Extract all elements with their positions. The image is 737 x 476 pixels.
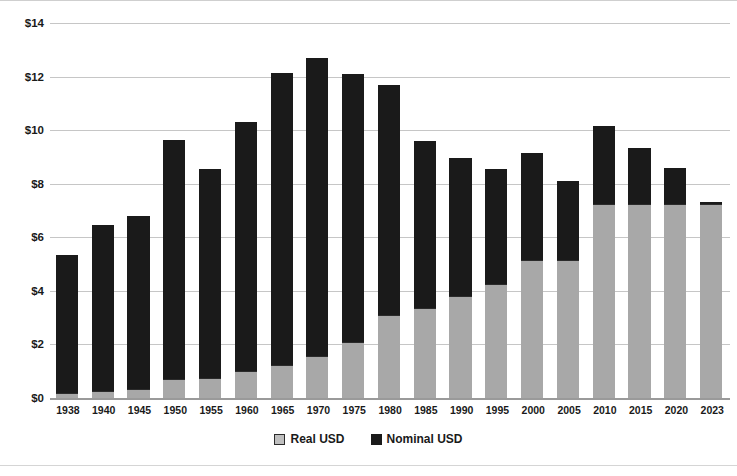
- bar-group: [50, 23, 86, 398]
- bar-group: [265, 23, 301, 398]
- bar-real-usd: [521, 260, 543, 398]
- bar-real-usd: [414, 308, 436, 398]
- bar-nominal-usd: [92, 225, 114, 398]
- bottom-divider: [0, 465, 737, 466]
- bar-group: [157, 23, 193, 398]
- bar-nominal-usd: [163, 140, 185, 398]
- bar-real-usd: [593, 204, 615, 398]
- y-tick-label: $10: [0, 124, 44, 136]
- bar-group: [193, 23, 229, 398]
- x-tick-label: 1955: [193, 404, 229, 416]
- bar-real-usd: [342, 342, 364, 398]
- bar-real-usd: [127, 389, 149, 398]
- bar-real-usd: [449, 296, 471, 398]
- bar-nominal-usd: [271, 73, 293, 398]
- y-tick-label: $2: [0, 338, 44, 350]
- bar-real-usd: [235, 371, 257, 398]
- y-tick-label: $4: [0, 285, 44, 297]
- legend-label: Real USD: [290, 432, 344, 446]
- legend-swatch-real-icon: [274, 434, 285, 445]
- bar-group: [551, 23, 587, 398]
- y-tick-label: $12: [0, 71, 44, 83]
- x-tick-label: 1995: [480, 404, 516, 416]
- bar-group: [229, 23, 265, 398]
- bar-real-usd: [92, 391, 114, 398]
- y-tick-label: $6: [0, 231, 44, 243]
- x-tick-label: 2015: [623, 404, 659, 416]
- x-tick-label: 1970: [301, 404, 337, 416]
- bar-group: [515, 23, 551, 398]
- legend-item[interactable]: Nominal USD: [371, 432, 463, 446]
- bar-real-usd: [271, 365, 293, 398]
- bar-group: [86, 23, 122, 398]
- x-tick-label: 1965: [265, 404, 301, 416]
- bar-group: [408, 23, 444, 398]
- gridline-0: [50, 398, 730, 400]
- bar-nominal-usd: [56, 255, 78, 398]
- legend-item[interactable]: Real USD: [274, 432, 344, 446]
- bar-groups: [50, 23, 730, 398]
- bar-real-usd: [628, 204, 650, 398]
- x-tick-label: 2000: [515, 404, 551, 416]
- x-tick-label: 1940: [86, 404, 122, 416]
- x-tick-label: 1980: [372, 404, 408, 416]
- bar-group: [122, 23, 158, 398]
- x-tick-label: 1938: [50, 404, 86, 416]
- bar-group: [372, 23, 408, 398]
- bar-group: [480, 23, 516, 398]
- x-tick-label: 2023: [694, 404, 730, 416]
- bar-group: [659, 23, 695, 398]
- bar-nominal-usd: [199, 169, 221, 398]
- bar-real-usd: [557, 260, 579, 398]
- bar-real-usd: [199, 378, 221, 398]
- bar-group: [623, 23, 659, 398]
- bar-nominal-usd: [306, 58, 328, 398]
- x-tick-label: 1985: [408, 404, 444, 416]
- bar-real-usd: [56, 393, 78, 398]
- y-tick-label: $14: [0, 17, 44, 29]
- x-tick-label: 1975: [336, 404, 372, 416]
- bar-real-usd: [378, 315, 400, 398]
- bar-group: [336, 23, 372, 398]
- bar-nominal-usd: [235, 122, 257, 398]
- bar-group: [587, 23, 623, 398]
- x-axis-tick-labels: 1938194019451950195519601965197019751980…: [50, 404, 730, 416]
- bar-real-usd: [163, 379, 185, 398]
- x-tick-label: 1960: [229, 404, 265, 416]
- y-tick-label: $8: [0, 178, 44, 190]
- top-divider: [0, 0, 737, 1]
- x-tick-label: 1990: [444, 404, 480, 416]
- bar-real-usd: [700, 204, 722, 398]
- legend-label: Nominal USD: [387, 432, 463, 446]
- x-tick-label: 2005: [551, 404, 587, 416]
- x-tick-label: 1945: [122, 404, 158, 416]
- bar-real-usd: [664, 204, 686, 398]
- bar-group: [694, 23, 730, 398]
- legend-swatch-nominal-icon: [371, 434, 382, 445]
- plot-area: [50, 23, 730, 398]
- bar-real-usd: [306, 356, 328, 398]
- bar-nominal-usd: [127, 216, 149, 398]
- x-tick-label: 2020: [659, 404, 695, 416]
- x-tick-label: 2010: [587, 404, 623, 416]
- bar-group: [444, 23, 480, 398]
- minimum-wage-bar-chart: $0$2$4$6$8$10$12$14 19381940194519501955…: [0, 0, 737, 476]
- x-tick-label: 1950: [157, 404, 193, 416]
- y-tick-label: $0: [0, 392, 44, 404]
- bar-group: [301, 23, 337, 398]
- chart-legend: Real USDNominal USD: [0, 432, 737, 446]
- bar-real-usd: [485, 284, 507, 398]
